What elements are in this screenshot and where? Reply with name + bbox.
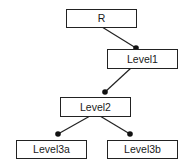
node-label: Level3b (124, 143, 161, 155)
node-r[interactable]: R (67, 10, 137, 28)
edge-line (100, 116, 130, 134)
edge-r-level1 (102, 27, 139, 51)
edges-layer (55, 27, 139, 137)
tree-diagram: RLevel1Level2Level3aLevel3b (0, 0, 189, 165)
node-level3b[interactable]: Level3b (108, 141, 178, 159)
nodes-layer: RLevel1Level2Level3aLevel3b (17, 10, 178, 159)
node-level2[interactable]: Level2 (61, 98, 131, 117)
edge-level1-level2 (102, 68, 131, 95)
node-level3a[interactable]: Level3a (17, 141, 87, 159)
node-label: Level2 (80, 101, 111, 113)
edge-line (102, 27, 136, 48)
edge-line (58, 116, 90, 134)
node-label: R (98, 12, 106, 24)
edge-line (105, 68, 131, 92)
node-label: Level3a (33, 143, 70, 155)
node-label: Level1 (127, 53, 158, 65)
connector-dot-icon (127, 131, 133, 137)
edge-level2-level3a (55, 116, 90, 137)
connector-dot-icon (55, 131, 61, 137)
node-level1[interactable]: Level1 (108, 50, 178, 69)
edge-level2-level3b (100, 116, 133, 137)
connector-dot-icon (102, 89, 108, 95)
